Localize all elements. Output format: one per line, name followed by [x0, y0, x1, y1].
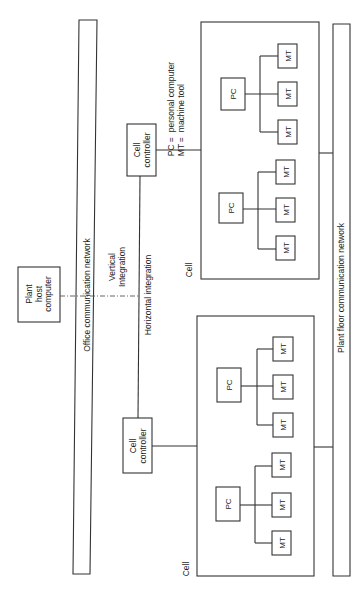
horizontal-integration-label: Horizontal integration	[144, 255, 154, 335]
pc-label: PC	[224, 498, 233, 509]
legend-meaning: machine tool	[175, 84, 185, 132]
plant-floor-network-label: Plant floor communication network	[337, 223, 347, 353]
label-line: controller	[142, 133, 152, 168]
label-line: Integration	[117, 247, 127, 287]
upper-cell-controller-label: Cell controller	[133, 133, 152, 168]
legend: PC=personal computer MT=machine tool	[167, 62, 186, 156]
pc-label: PC	[227, 202, 236, 213]
legend-item-mt: MT=machine tool	[176, 62, 186, 156]
pc-label: PC	[225, 379, 234, 390]
plant-host-computer-label: Plant host computer	[25, 276, 54, 311]
mt-label: MT	[277, 459, 286, 471]
label-line: controller	[138, 429, 148, 464]
legend-meaning: personal computer	[166, 62, 176, 132]
mt-label: MT	[281, 242, 290, 254]
upper-cell-label: Cell	[185, 263, 195, 278]
legend-eq: =	[176, 132, 186, 142]
mt-label: MT	[283, 88, 292, 100]
mt-label: MT	[277, 499, 286, 511]
mt-label: MT	[281, 166, 290, 178]
vertical-integration-label: Vertical Integration	[108, 247, 127, 287]
pc-label: PC	[229, 88, 238, 99]
lower-cell-controller-label: Cell controller	[129, 429, 148, 464]
office-network-label: Office communication network	[83, 238, 93, 352]
mt-label: MT	[279, 381, 288, 393]
lower-cell-label: Cell	[182, 562, 192, 577]
label-line: computer	[44, 276, 54, 311]
mt-label: MT	[283, 126, 292, 138]
mt-label: MT	[279, 343, 288, 355]
mt-label: MT	[283, 50, 292, 62]
legend-abbr: MT	[176, 142, 186, 156]
mt-label: MT	[277, 537, 286, 549]
horizontal-integration-link	[138, 176, 140, 418]
mt-label: MT	[279, 419, 288, 431]
mt-label: MT	[281, 204, 290, 216]
